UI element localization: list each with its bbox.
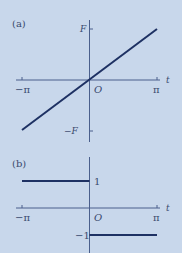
label-neg-pi-a: −π <box>15 84 30 95</box>
label-pi-a: π <box>153 84 160 95</box>
panel-label-a: (a) <box>12 18 26 29</box>
label-F: F <box>79 24 87 34</box>
panel-label-b: (b) <box>12 158 26 169</box>
label-origin-a: O <box>94 84 102 95</box>
panel-a: (a) F −F −π O π t <box>12 18 170 142</box>
label-neg-one: −1 <box>75 230 90 241</box>
figure: (a) F −F −π O π t (b) 1 −1 −π O π t <box>0 0 182 253</box>
label-neg-pi-b: −π <box>15 212 30 223</box>
label-t-b: t <box>166 203 170 213</box>
label-neg-F: −F <box>64 126 79 136</box>
label-one: 1 <box>94 176 100 187</box>
label-origin-b: O <box>94 212 102 223</box>
label-t-a: t <box>166 75 170 85</box>
label-pi-b: π <box>153 212 160 223</box>
panel-b: (b) 1 −1 −π O π t <box>12 157 170 253</box>
